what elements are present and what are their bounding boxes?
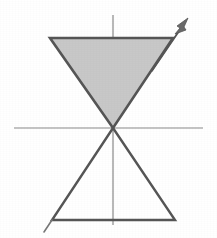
arrow-head-icon [175,18,188,34]
lower-left-tail-stub [44,220,52,232]
figure-canvas [0,0,217,238]
double-cone-diagram [0,0,217,238]
upper-shaded-triangle [50,38,173,128]
